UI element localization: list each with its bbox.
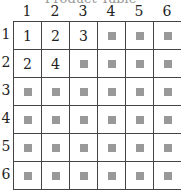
table-cell[interactable] [154,162,181,190]
column-header: 5 [125,3,153,19]
table-cell[interactable] [154,50,181,78]
table-cell[interactable] [126,162,154,190]
empty-square-icon [164,172,172,180]
table-cell[interactable] [98,134,126,162]
table-cell[interactable]: 2 [42,22,70,50]
column-header: 4 [97,3,125,19]
table-cell[interactable] [154,134,181,162]
row-header: 3 [0,82,12,98]
row-header: 6 [0,166,12,182]
table-cell[interactable] [126,78,154,106]
table-cell[interactable] [70,50,98,78]
empty-square-icon [80,60,88,68]
table-cell[interactable]: 3 [70,22,98,50]
column-header: 6 [153,3,181,19]
table-cell[interactable] [70,134,98,162]
empty-square-icon [24,172,32,180]
empty-square-icon [80,172,88,180]
cell-value: 2 [51,28,60,44]
empty-square-icon [80,88,88,96]
empty-square-icon [24,116,32,124]
table-cell[interactable] [154,22,181,50]
empty-square-icon [108,116,116,124]
row-header: 2 [0,54,12,70]
table-cell[interactable] [42,162,70,190]
empty-square-icon [136,116,144,124]
table-cell[interactable] [154,78,181,106]
table-cell[interactable]: 4 [42,50,70,78]
table-cell[interactable] [70,78,98,106]
empty-square-icon [80,116,88,124]
table-cell[interactable] [98,50,126,78]
empty-square-icon [164,116,172,124]
column-header: 1 [13,3,41,19]
table-cell[interactable] [98,22,126,50]
table-cell[interactable] [70,162,98,190]
empty-square-icon [52,172,60,180]
table-cell[interactable] [14,162,42,190]
empty-square-icon [108,60,116,68]
empty-square-icon [136,32,144,40]
empty-square-icon [108,172,116,180]
table-cell[interactable]: 1 [14,22,42,50]
table-cell[interactable] [14,134,42,162]
empty-square-icon [164,144,172,152]
empty-square-icon [108,144,116,152]
row-header: 1 [0,26,12,42]
table-cell[interactable]: 2 [14,50,42,78]
empty-square-icon [164,32,172,40]
multiplication-grid: 12324 [13,21,181,190]
empty-square-icon [164,88,172,96]
table-cell[interactable] [14,78,42,106]
empty-square-icon [52,88,60,96]
table-cell[interactable] [126,50,154,78]
empty-square-icon [136,172,144,180]
empty-square-icon [24,144,32,152]
column-header: 2 [41,3,69,19]
empty-square-icon [52,144,60,152]
row-header: 5 [0,138,12,154]
cell-value: 4 [51,56,60,72]
empty-square-icon [108,88,116,96]
table-cell[interactable] [14,106,42,134]
empty-square-icon [24,88,32,96]
table-cell[interactable] [98,106,126,134]
empty-square-icon [136,88,144,96]
cell-value: 3 [79,28,88,44]
table-cell[interactable] [42,106,70,134]
table-cell[interactable] [126,106,154,134]
empty-square-icon [164,60,172,68]
empty-square-icon [52,116,60,124]
table-cell[interactable] [98,78,126,106]
empty-square-icon [80,144,88,152]
cell-value: 1 [23,28,32,44]
empty-square-icon [136,60,144,68]
column-header: 3 [69,3,97,19]
table-cell[interactable] [126,22,154,50]
table-cell[interactable] [42,78,70,106]
empty-square-icon [108,32,116,40]
row-header: 4 [0,110,12,126]
table-cell[interactable] [154,106,181,134]
table-cell[interactable] [42,134,70,162]
empty-square-icon [136,144,144,152]
cell-value: 2 [23,56,32,72]
table-cell[interactable] [126,134,154,162]
table-cell[interactable] [70,106,98,134]
table-cell[interactable] [98,162,126,190]
